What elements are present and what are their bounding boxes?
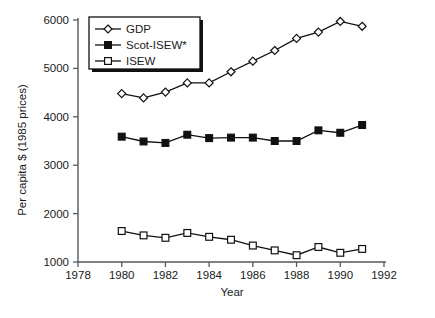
x-tick-label: 1988 bbox=[284, 269, 310, 281]
data-point bbox=[161, 88, 169, 96]
data-point bbox=[162, 140, 169, 147]
series-isew bbox=[118, 228, 365, 259]
data-point bbox=[228, 134, 235, 141]
x-tick-label: 1986 bbox=[240, 269, 266, 281]
data-point bbox=[249, 57, 257, 65]
x-tick-label: 1984 bbox=[196, 269, 222, 281]
data-point bbox=[358, 22, 366, 30]
chart-legend: GDPScot-ISEW*ISEW bbox=[89, 17, 203, 72]
data-point bbox=[184, 230, 191, 237]
data-point bbox=[271, 138, 278, 145]
data-point bbox=[206, 135, 213, 142]
data-point bbox=[140, 138, 147, 145]
x-tick-label: 1992 bbox=[371, 269, 397, 281]
data-point bbox=[118, 228, 125, 235]
data-point bbox=[271, 247, 278, 254]
chart-container: 100020003000400050006000 197819801982198… bbox=[0, 0, 435, 318]
legend-label: Scot-ISEW* bbox=[126, 39, 187, 51]
data-point bbox=[228, 236, 235, 243]
x-tick-label: 1982 bbox=[153, 269, 179, 281]
y-tick-label: 2000 bbox=[43, 208, 69, 220]
data-point bbox=[293, 34, 301, 42]
x-tick-label: 1990 bbox=[327, 269, 353, 281]
data-point bbox=[293, 252, 300, 259]
data-point bbox=[271, 46, 279, 54]
x-tick-label: 1978 bbox=[65, 269, 91, 281]
data-point bbox=[140, 232, 147, 239]
y-axis-tick-labels: 100020003000400050006000 bbox=[43, 14, 69, 268]
data-point bbox=[337, 129, 344, 136]
data-point bbox=[205, 79, 213, 87]
data-point bbox=[359, 246, 366, 253]
legend-label: ISEW bbox=[126, 55, 156, 67]
x-axis-title: Year bbox=[220, 286, 243, 298]
y-tick-label: 6000 bbox=[43, 14, 69, 26]
legend-label: GDP bbox=[126, 23, 151, 35]
data-point bbox=[227, 68, 235, 76]
data-point bbox=[162, 234, 169, 241]
y-tick-label: 1000 bbox=[43, 256, 69, 268]
data-point bbox=[118, 133, 125, 140]
data-point bbox=[183, 79, 191, 87]
y-tick-label: 4000 bbox=[43, 111, 69, 123]
x-axis-tick-labels: 19781980198219841986198819901992 bbox=[65, 269, 397, 281]
data-point bbox=[359, 122, 366, 129]
data-point bbox=[315, 244, 322, 251]
y-tick-label: 3000 bbox=[43, 159, 69, 171]
data-point bbox=[315, 127, 322, 134]
line-chart: 100020003000400050006000 197819801982198… bbox=[0, 0, 435, 318]
data-point bbox=[337, 249, 344, 256]
x-tick-label: 1980 bbox=[109, 269, 135, 281]
data-point bbox=[249, 242, 256, 249]
data-point bbox=[184, 131, 191, 138]
data-point bbox=[314, 28, 322, 36]
data-point bbox=[140, 94, 148, 102]
data-point bbox=[249, 134, 256, 141]
y-tick-label: 5000 bbox=[43, 62, 69, 74]
legend-marker bbox=[105, 42, 112, 49]
data-point bbox=[293, 138, 300, 145]
y-axis-title: Per capita $ (1985 prices) bbox=[16, 84, 28, 216]
legend-marker bbox=[105, 58, 112, 65]
data-point bbox=[118, 90, 126, 98]
series-scot-isew bbox=[118, 122, 365, 147]
data-point bbox=[206, 233, 213, 240]
data-point bbox=[336, 17, 344, 25]
